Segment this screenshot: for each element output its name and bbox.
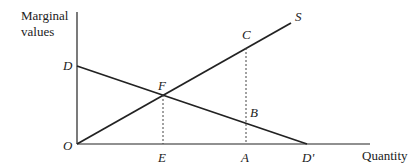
marginal-values-diagram: Marginal values Quantity D O F E C B A D… (0, 0, 412, 167)
supply-label-S: S (295, 9, 302, 24)
x-axis-label: Quantity (362, 148, 408, 163)
point-label-F: F (157, 78, 167, 93)
y-axis-label-line2: values (21, 24, 54, 39)
point-label-D: D (62, 58, 73, 73)
point-label-B: B (250, 105, 258, 120)
point-label-E: E (157, 150, 166, 165)
point-label-C: C (242, 27, 251, 42)
point-label-D-prime: D' (301, 150, 314, 165)
point-label-O: O (63, 138, 73, 153)
demand-line (77, 66, 307, 144)
y-axis-label-line1: Marginal (21, 8, 69, 23)
supply-line (77, 23, 291, 144)
point-label-A: A (240, 150, 249, 165)
